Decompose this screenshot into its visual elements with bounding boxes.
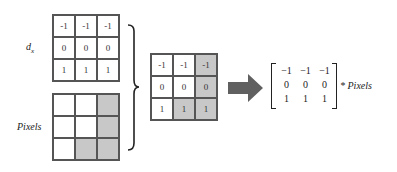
pixel-cell-shaded — [98, 95, 118, 115]
pixel-cell — [54, 95, 74, 115]
matrix-entry: 1 — [277, 92, 296, 106]
left-bracket — [271, 63, 276, 109]
curly-brace-icon — [125, 22, 141, 154]
result-cell-shaded: -1 — [196, 55, 216, 75]
kernel-grid: -1 -1 -1 0 0 0 1 1 1 — [52, 14, 120, 82]
kernel-cell: -1 — [76, 16, 96, 36]
kernel-cell: -1 — [54, 16, 74, 36]
result-cell-shaded: 0 — [196, 77, 216, 97]
right-bracket — [332, 63, 337, 109]
result-cell: 0 — [152, 77, 172, 97]
kernel-label: dx — [26, 41, 34, 55]
pixel-cell — [76, 117, 96, 137]
result-cell-shaded: 1 — [196, 99, 216, 119]
convolution-operator: * — [340, 80, 345, 91]
pixels-label: Pixels — [17, 121, 41, 132]
pixels-grid — [52, 93, 120, 161]
pixel-cell-shaded — [98, 139, 118, 159]
matrix-entry: −1 — [296, 64, 315, 78]
kernel-cell: 0 — [98, 38, 118, 58]
right-arrow-icon — [228, 74, 264, 102]
kernel-cell: 0 — [76, 38, 96, 58]
kernel-cell: 1 — [76, 60, 96, 80]
kernel-cell: -1 — [98, 16, 118, 36]
convolution-operand: * Pixels — [340, 80, 372, 91]
result-cell: -1 — [152, 55, 172, 75]
result-cell: 0 — [174, 77, 194, 97]
pixel-cell-shaded — [98, 117, 118, 137]
matrix-entry: −1 — [277, 64, 296, 78]
kernel-matrix: −1 −1 −1 0 0 0 1 1 1 — [271, 63, 337, 109]
kernel-cell: 1 — [98, 60, 118, 80]
matrix-entry: 1 — [296, 92, 315, 106]
result-grid: -1 -1 -1 0 0 0 1 1 1 — [150, 53, 218, 121]
kernel-cell: 1 — [54, 60, 74, 80]
pixel-cell — [76, 95, 96, 115]
matrix-entry: 0 — [277, 78, 296, 92]
result-cell: 1 — [152, 99, 172, 119]
pixel-cell-shaded — [76, 139, 96, 159]
operand-label: Pixels — [348, 80, 372, 91]
pixel-cell — [54, 139, 74, 159]
pixel-cell — [54, 117, 74, 137]
matrix-entry: 0 — [296, 78, 315, 92]
result-cell: -1 — [174, 55, 194, 75]
kernel-cell: 0 — [54, 38, 74, 58]
result-cell-shaded: 1 — [174, 99, 194, 119]
